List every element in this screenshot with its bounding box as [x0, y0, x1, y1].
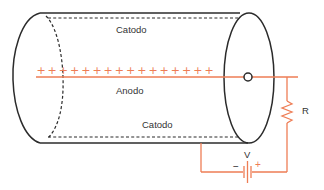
plus-sign: + [182, 64, 191, 77]
plus-sign: + [204, 64, 213, 77]
plus-sign: + [148, 64, 157, 77]
plus-sign: + [126, 64, 135, 77]
label-catodo-top: Catodo [116, 24, 147, 35]
label-battery-minus: − [233, 161, 239, 172]
battery-icon [244, 161, 251, 183]
label-anodo: Anodo [116, 85, 143, 96]
label-resistor: R [302, 105, 309, 116]
plus-sign: + [59, 64, 68, 77]
plus-sign: + [160, 64, 169, 77]
label-catodo-bottom: Catodo [142, 119, 173, 130]
anode-terminal-icon [244, 73, 252, 81]
plus-sign: + [36, 64, 45, 77]
plus-sign: + [81, 64, 90, 77]
plus-sign: + [48, 64, 57, 77]
cylinder-left-end [13, 13, 40, 143]
plus-sign: + [70, 64, 79, 77]
label-battery-plus: + [255, 159, 261, 170]
plus-sign: + [137, 64, 146, 77]
label-voltage: V [244, 149, 251, 160]
external-circuit [201, 77, 292, 183]
plus-sign: + [92, 64, 101, 77]
resistor-icon [282, 101, 292, 123]
plus-sign: + [193, 64, 202, 77]
plus-sign: + [115, 64, 124, 77]
coaxial-tube-diagram: ++++++++++++++++ Catodo Anodo Catodo R V… [0, 0, 324, 190]
plus-sign: + [104, 64, 113, 77]
plus-sign: + [171, 64, 180, 77]
anode-charge-signs: ++++++++++++++++ [36, 64, 213, 77]
